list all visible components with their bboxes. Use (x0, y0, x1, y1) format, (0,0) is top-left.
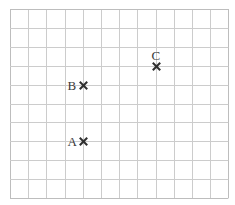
point-label-c: C (152, 49, 161, 62)
grid (0, 0, 235, 205)
grid-lines (10, 9, 229, 199)
point-label-b: B (68, 79, 77, 92)
point-label-a: A (68, 135, 77, 148)
